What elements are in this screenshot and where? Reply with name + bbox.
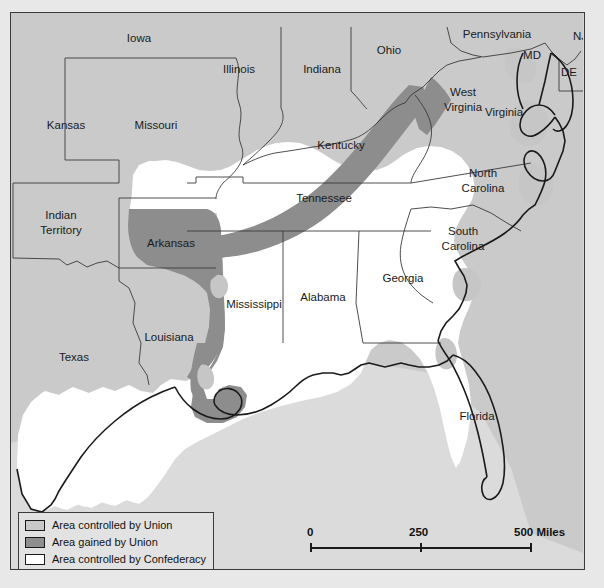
label-kansas: Kansas (47, 119, 86, 131)
legend-label-union: Area controlled by Union (52, 520, 172, 531)
map-svg: Iowa Illinois Indiana Ohio Pennsylvania … (11, 13, 583, 568)
legend-item-union: Area controlled by Union (25, 517, 207, 534)
label-nj: NJ (573, 30, 583, 42)
label-west-virginia-1: West (450, 86, 477, 98)
scale-tick-0 (310, 543, 312, 552)
label-south-carolina-1: South (448, 225, 478, 237)
label-north-carolina-2: Carolina (462, 182, 505, 194)
label-texas: Texas (59, 351, 89, 363)
scale-tick-250 (420, 543, 422, 552)
label-indiana: Indiana (303, 63, 341, 75)
label-florida: Florida (459, 410, 495, 422)
label-tennessee: Tennessee (296, 192, 352, 204)
label-indian-territory-1: Indian (45, 209, 76, 221)
label-pennsylvania: Pennsylvania (463, 28, 532, 40)
legend-item-confederacy: Area controlled by Confederacy (25, 551, 207, 568)
legend-swatch-confederacy (25, 554, 45, 565)
map-scale-bar: 0 250 500 Miles (310, 526, 550, 566)
map-frame: Iowa Illinois Indiana Ohio Pennsylvania … (10, 12, 585, 570)
label-iowa: Iowa (127, 32, 152, 44)
label-missouri: Missouri (135, 119, 178, 131)
legend-swatch-gained (25, 537, 45, 548)
label-louisiana: Louisiana (144, 331, 194, 343)
legend-swatch-union (25, 520, 45, 531)
scale-label-start: 0 (307, 526, 313, 538)
label-indian-territory-2: Territory (40, 224, 82, 236)
label-illinois: Illinois (223, 63, 255, 75)
scale-tick-500 (530, 543, 532, 552)
label-kentucky: Kentucky (317, 139, 365, 151)
label-mississippi: Mississippi (226, 298, 282, 310)
map-legend: Area controlled by Union Area gained by … (18, 512, 214, 570)
label-north-carolina-1: North (469, 167, 497, 179)
label-south-carolina-2: Carolina (442, 240, 485, 252)
legend-label-confederacy: Area controlled by Confederacy (52, 554, 206, 565)
label-virginia: Virginia (485, 106, 524, 118)
map-screenshot: Iowa Illinois Indiana Ohio Pennsylvania … (0, 0, 604, 588)
label-md: MD (523, 49, 541, 61)
label-west-virginia-2: Virginia (444, 101, 483, 113)
label-de: DE (561, 66, 577, 78)
label-georgia: Georgia (383, 272, 425, 284)
label-ohio: Ohio (377, 44, 401, 56)
scale-label-mid: 250 (409, 526, 428, 538)
scale-label-end: 500 Miles (514, 526, 565, 538)
legend-label-gained: Area gained by Union (52, 537, 158, 548)
label-alabama: Alabama (300, 291, 346, 303)
label-arkansas: Arkansas (147, 237, 195, 249)
legend-item-gained: Area gained by Union (25, 534, 207, 551)
